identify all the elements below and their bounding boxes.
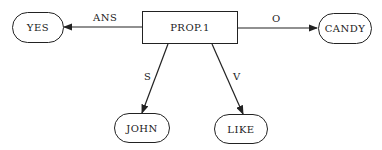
node-candy: CANDY xyxy=(318,13,372,44)
edge-label-ans: ANS xyxy=(93,12,117,23)
edge-label-o: O xyxy=(272,13,281,24)
node-prop: PROP.1 xyxy=(142,11,238,44)
node-like: LIKE xyxy=(214,114,268,144)
node-john: JOHN xyxy=(114,113,170,143)
node-yes: YES xyxy=(12,12,64,43)
edge-label-v: V xyxy=(233,71,241,82)
edge-label-s: S xyxy=(144,71,151,82)
